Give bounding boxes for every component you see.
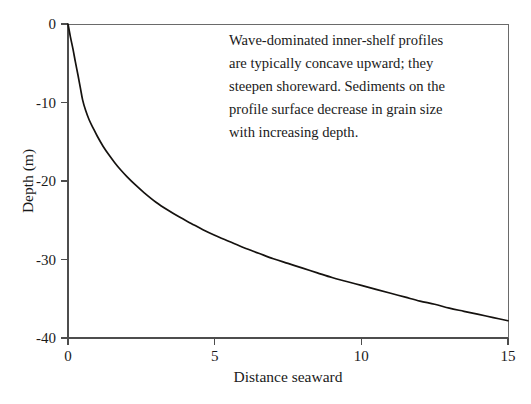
annotation-line-3: steepen shoreward. Sediments on the [229,78,445,94]
figure-panel: 0 -10 -20 -30 -40 0 5 10 15 Depth (m) Di… [0,0,531,404]
annotation-line-5: with increasing depth. [229,124,358,140]
y-tick-label-minus20: -20 [36,173,56,189]
y-tick-label-minus30: -30 [36,252,56,268]
x-tick-label-0: 0 [64,348,72,364]
x-tick-label-5: 5 [211,348,219,364]
x-axis-title: Distance seaward [234,368,343,385]
x-tick-label-10: 10 [354,348,369,364]
y-tick-label-0: 0 [49,16,57,32]
annotation-line-1: Wave-dominated inner-shelf profiles [229,32,443,48]
annotation-line-4: profile surface decrease in grain size [229,101,443,117]
depth-profile-chart: 0 -10 -20 -30 -40 0 5 10 15 Depth (m) Di… [0,0,531,404]
y-tick-label-minus10: -10 [36,95,56,111]
annotation-line-2: are typically concave upward; they [229,55,434,71]
x-tick-label-15: 15 [501,348,516,364]
y-axis-title: Depth (m) [19,149,37,213]
y-tick-label-minus40: -40 [36,330,56,346]
